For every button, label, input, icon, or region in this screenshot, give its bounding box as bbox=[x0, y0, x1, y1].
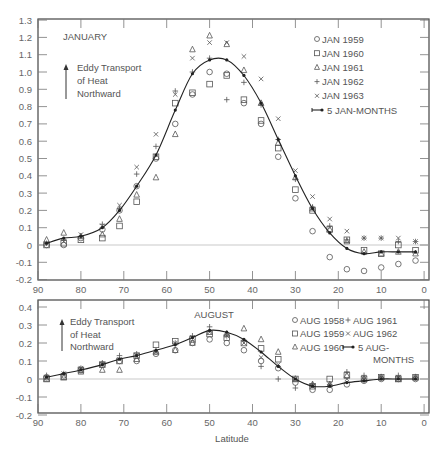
x-tick-label: 60 bbox=[161, 284, 172, 295]
annotation-line-2: of Heat bbox=[77, 75, 108, 86]
y-tick-label: -0.1 bbox=[16, 392, 32, 403]
x-tick-label: 20 bbox=[333, 417, 344, 428]
dot-marker bbox=[320, 108, 323, 111]
y-tick-label: 0.5 bbox=[19, 153, 32, 164]
x-marker bbox=[207, 40, 211, 44]
circle-marker bbox=[293, 318, 298, 323]
chart-canvas: -0.2-0.100.10.20.30.40.50.60.70.80.91.01… bbox=[0, 0, 444, 452]
x-tick-label: 80 bbox=[76, 284, 87, 295]
x-tick-label: 30 bbox=[290, 284, 301, 295]
circle-marker bbox=[275, 154, 281, 160]
circle-marker bbox=[396, 261, 402, 267]
january-legend: JAN 1959JAN 1960JAN 1961JAN 1962JAN 1963… bbox=[312, 34, 397, 116]
circle-marker bbox=[315, 37, 320, 42]
legend-label: AUG 1962 bbox=[353, 328, 397, 339]
x-marker bbox=[276, 116, 280, 120]
triangle-marker bbox=[258, 336, 264, 342]
dot-marker bbox=[351, 345, 354, 348]
x-marker bbox=[242, 54, 246, 58]
square-marker bbox=[315, 51, 320, 56]
y-tick-label: 0 bbox=[27, 240, 32, 251]
x-tick-label: 40 bbox=[247, 284, 258, 295]
y-tick-label: 0.3 bbox=[19, 320, 32, 331]
plus-marker bbox=[207, 324, 213, 330]
x-marker bbox=[327, 217, 331, 221]
legend-label: JAN 1959 bbox=[322, 34, 364, 45]
triangle-marker bbox=[134, 192, 140, 198]
y-tick-label: 1.1 bbox=[19, 49, 32, 60]
legend-label: JAN 1962 bbox=[322, 76, 364, 87]
circle-marker bbox=[207, 69, 213, 75]
plus-marker bbox=[315, 79, 320, 84]
x-tick-label: 80 bbox=[76, 417, 87, 428]
plus-marker bbox=[327, 223, 333, 229]
plus-marker bbox=[344, 369, 350, 375]
legend-label: JAN 1963 bbox=[322, 90, 364, 101]
triangle-marker bbox=[275, 349, 281, 355]
x-tick-label: 20 bbox=[333, 284, 344, 295]
circle-marker bbox=[207, 337, 213, 343]
annotation-line-1: Eddy Transport bbox=[77, 62, 142, 73]
circle-marker bbox=[293, 195, 299, 201]
square-marker bbox=[134, 199, 140, 205]
legend-label: 5 JAN-MONTHS bbox=[327, 105, 397, 116]
triangle-marker bbox=[61, 230, 67, 236]
august-legend: AUG 1958AUG 1961AUG 1959AUG 1962AUG 1960… bbox=[293, 315, 415, 366]
legend-label-cont: MONTHS bbox=[373, 354, 414, 365]
x-marker bbox=[345, 229, 349, 233]
august-title: AUGUST bbox=[194, 309, 234, 320]
square-marker bbox=[275, 145, 281, 151]
y-tick-label: -0.1 bbox=[16, 257, 32, 268]
x-marker bbox=[315, 94, 319, 98]
square-marker bbox=[293, 187, 299, 193]
legend-label: 5 AUG- bbox=[358, 342, 389, 353]
arrowhead-icon bbox=[64, 64, 69, 70]
triangle-marker bbox=[153, 174, 159, 180]
plus-marker bbox=[241, 80, 247, 86]
plus-marker bbox=[293, 385, 299, 391]
august-chart: -0.2-0.100.10.20.30.4 908070605040302010… bbox=[16, 300, 429, 444]
legend-label: JAN 1960 bbox=[322, 48, 364, 59]
circle-marker bbox=[413, 258, 419, 264]
x-tick-label: 40 bbox=[247, 417, 258, 428]
x-tick-label: 70 bbox=[119, 417, 130, 428]
plus-marker bbox=[134, 171, 140, 177]
legend-label: JAN 1961 bbox=[322, 62, 364, 73]
annotation-line-1: Eddy Transport bbox=[70, 316, 135, 327]
january-annotation: Eddy Transport of Heat Northward bbox=[64, 62, 142, 99]
circle-marker bbox=[361, 268, 367, 274]
legend-label: AUG 1960 bbox=[300, 342, 344, 353]
circle-marker bbox=[190, 92, 196, 98]
square-marker bbox=[117, 223, 123, 229]
january-chart: -0.2-0.100.10.20.30.40.50.60.70.80.91.01… bbox=[16, 15, 429, 295]
x-tick-label: 50 bbox=[204, 284, 215, 295]
x-tick-label: 0 bbox=[421, 284, 426, 295]
annotation-line-3: Northward bbox=[77, 88, 121, 99]
square-marker bbox=[293, 331, 298, 336]
x-marker bbox=[154, 132, 158, 136]
triangle-marker bbox=[207, 32, 213, 38]
legend-label: AUG 1958 bbox=[300, 315, 344, 326]
x-tick-label: 60 bbox=[161, 417, 172, 428]
circle-marker bbox=[241, 100, 247, 106]
x-marker bbox=[310, 194, 314, 198]
x-marker bbox=[346, 332, 350, 336]
legend-label: AUG 1959 bbox=[300, 328, 344, 339]
x-tick-label: 0 bbox=[421, 417, 426, 428]
circle-marker bbox=[241, 347, 247, 353]
y-tick-label: 0.3 bbox=[19, 188, 32, 199]
legend-label: AUG 1961 bbox=[353, 315, 397, 326]
annotation-line-3: Northward bbox=[70, 341, 114, 352]
triangle-marker bbox=[241, 67, 247, 73]
y-tick-label: 0.1 bbox=[19, 222, 32, 233]
arrowhead-icon bbox=[60, 319, 65, 325]
y-tick-label: 0.6 bbox=[19, 136, 32, 147]
y-tick-label: 1.3 bbox=[19, 15, 32, 26]
triangle-marker bbox=[117, 367, 123, 373]
y-tick-label: 0.1 bbox=[19, 356, 32, 367]
circle-marker bbox=[224, 340, 230, 346]
y-tick-label: 0 bbox=[27, 374, 32, 385]
january-y-axis: -0.2-0.100.10.20.30.40.50.60.70.80.91.01… bbox=[16, 15, 429, 286]
x-axis-label: Latitude bbox=[215, 433, 249, 444]
plus-marker bbox=[224, 97, 230, 103]
